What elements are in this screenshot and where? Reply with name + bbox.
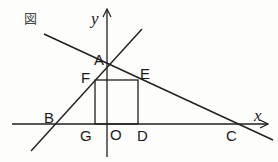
point-g-label: G xyxy=(80,128,92,143)
figure-caption: 図 xyxy=(24,12,37,25)
y-axis-label: y xyxy=(91,10,99,27)
point-a-label: A xyxy=(94,52,104,67)
point-b-label: B xyxy=(44,110,54,125)
x-axis-label: x xyxy=(254,107,262,124)
point-d-label: D xyxy=(137,128,148,143)
point-e-label: E xyxy=(140,66,150,81)
point-c-label: C xyxy=(226,128,237,143)
square-defg xyxy=(95,80,138,124)
origin-label: O xyxy=(110,127,122,142)
diagram-canvas: 図 y x A B C D E F G O xyxy=(0,0,278,162)
point-f-label: F xyxy=(81,70,90,85)
